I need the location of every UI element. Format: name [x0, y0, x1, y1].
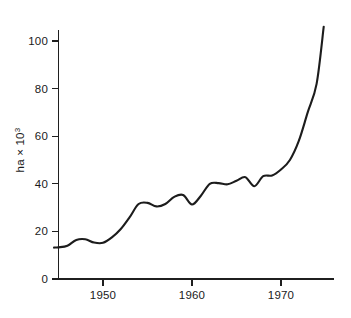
- line-chart: 0 20 40 60 80 100 1950 1960 1970 ha × 10…: [0, 0, 351, 318]
- y-tick-label-group: 0 20 40 60 80 100: [28, 35, 48, 285]
- y-tick-label-20: 20: [35, 225, 48, 237]
- x-tick-label-1960: 1960: [179, 289, 205, 301]
- y-tick-group: [52, 41, 59, 279]
- y-axis-title-base: ha × 10: [14, 132, 26, 172]
- y-tick-label-80: 80: [35, 83, 48, 95]
- chart-container: 0 20 40 60 80 100 1950 1960 1970 ha × 10…: [0, 0, 351, 318]
- data-series-line: [54, 27, 324, 248]
- y-tick-label-40: 40: [35, 178, 48, 190]
- x-tick-label-group: 1950 1960 1970: [90, 289, 294, 301]
- x-tick-label-1950: 1950: [90, 289, 116, 301]
- y-axis-title-exponent: 3: [13, 127, 22, 132]
- y-tick-label-60: 60: [35, 130, 48, 142]
- y-tick-label-0: 0: [41, 273, 48, 285]
- x-tick-group: [103, 279, 281, 286]
- y-axis-title-text: ha × 103: [13, 127, 26, 172]
- y-tick-label-100: 100: [28, 35, 48, 47]
- x-tick-label-1970: 1970: [268, 289, 294, 301]
- y-axis-title: ha × 103: [13, 127, 26, 172]
